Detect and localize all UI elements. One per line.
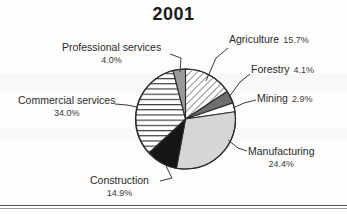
slice-label-commercial-services: Commercial services34.0%: [18, 94, 115, 119]
slice-label-forestry-pct: 4.1%: [294, 65, 315, 75]
slice-label-forestry: Forestry4.1%: [251, 63, 314, 76]
leader-line-mining: [233, 100, 256, 108]
slice-label-manufacturing-pct: 24.4%: [248, 158, 315, 170]
leader-line-forestry: [229, 74, 250, 97]
slice-label-construction-pct: 14.9%: [90, 187, 149, 199]
leader-line-construction: [160, 166, 172, 181]
slice-label-construction-name: Construction: [90, 174, 149, 186]
slice-label-mining-pct: 2.9%: [292, 94, 313, 104]
slice-label-forestry-name: Forestry: [251, 63, 290, 75]
slice-label-manufacturing-name: Manufacturing: [248, 145, 315, 157]
slice-label-agriculture: Agriculture15.7%: [229, 33, 309, 46]
slice-label-agriculture-pct: 15.7%: [283, 35, 309, 45]
slice-label-manufacturing: Manufacturing24.4%: [248, 145, 315, 170]
slice-label-construction: Construction14.9%: [90, 174, 149, 199]
leader-line-commercial-services: [115, 104, 137, 107]
slice-label-professional-services: Professional services4.0%: [62, 41, 161, 66]
slice-label-mining-name: Mining: [257, 92, 288, 104]
slice-label-professional-services-pct: 4.0%: [62, 54, 161, 66]
chart-figure: 2001: [0, 0, 347, 215]
slice-label-commercial-services-name: Commercial services: [18, 94, 115, 106]
leader-line-manufacturing: [228, 140, 247, 151]
footer-rule-secondary: [0, 208, 347, 209]
slice-label-mining: Mining2.9%: [257, 92, 312, 105]
slice-label-professional-services-name: Professional services: [62, 41, 161, 53]
slice-label-commercial-services-pct: 34.0%: [18, 107, 115, 119]
footer-rule: [0, 205, 347, 206]
slice-label-agriculture-name: Agriculture: [229, 33, 279, 45]
